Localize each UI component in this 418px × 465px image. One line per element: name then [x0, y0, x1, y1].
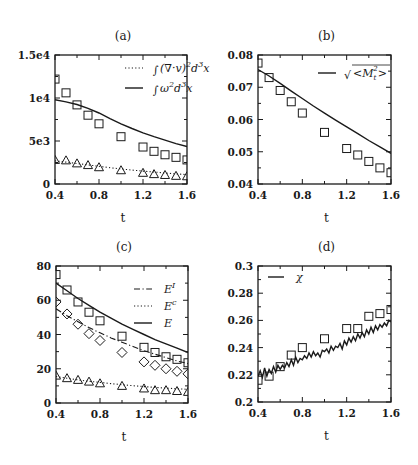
triangle-markers: [51, 155, 192, 179]
legend-label: <Mt2>: [353, 65, 387, 82]
y-tick-label: 0.08: [227, 49, 253, 61]
plot-area: [254, 306, 395, 385]
y-tick-label: 80: [36, 260, 51, 272]
legend: χ: [268, 271, 304, 284]
x-tick-label: 1.6: [179, 408, 197, 420]
y-tick-label: 0.28: [227, 287, 253, 299]
x-tick-label: 0.4: [249, 407, 267, 419]
panel-title: (c): [116, 240, 132, 254]
legend-label: Ec​: [163, 298, 177, 313]
y-tick-label: 0: [43, 178, 50, 190]
y-tick-label: 0.3: [235, 260, 253, 272]
sqrt-symbol: √: [344, 69, 352, 82]
triangle-markers: [52, 371, 193, 395]
y-tick-label: 0.2: [235, 396, 253, 408]
panel-title: (d): [318, 240, 335, 254]
x-tick-label: 0.8: [293, 189, 311, 201]
x-tick-label: 1.2: [338, 407, 356, 419]
x-tick-label: 0.4: [46, 189, 64, 201]
y-tick-label: 0.26: [227, 314, 253, 326]
legend-label: ω2​d3​x: [160, 80, 193, 95]
x-tick-label: 1.2: [135, 408, 153, 420]
x-tick-label: 1.6: [382, 407, 400, 419]
x-tick-label: 1.6: [178, 189, 196, 201]
x-axis-label: t: [324, 429, 329, 443]
y-tick-label: 1.5e4: [18, 49, 50, 61]
x-tick-label: 0.8: [293, 407, 311, 419]
y-tick-label: 0.07: [227, 81, 253, 93]
legend-label: (∇·v)2​d3​x: [160, 60, 210, 75]
x-tick-label: 1.6: [382, 189, 400, 201]
x-axis-label: t: [121, 211, 126, 225]
legend-label: χ: [295, 271, 304, 284]
plot-area: [51, 75, 192, 180]
y-tick-label: 0: [44, 397, 51, 409]
y-tick-label: 0.04: [227, 178, 253, 190]
x-tick-label: 1.2: [338, 189, 356, 201]
y-tick-label: 0.05: [227, 146, 253, 158]
series-line: [55, 100, 187, 147]
y-tick-label: 0.22: [227, 369, 253, 381]
integral-symbol: ∫: [153, 84, 159, 97]
panel-title: (b): [318, 29, 335, 43]
integral-symbol: ∫: [153, 64, 159, 77]
series-line: [258, 320, 391, 377]
y-tick-label: 20: [36, 363, 51, 375]
x-tick-label: 0.8: [90, 189, 108, 201]
panel-b: (b)0.40.81.21.60.040.050.060.070.08t√<Mt…: [227, 29, 400, 225]
plot-frame: [258, 266, 391, 402]
x-axis-label: t: [324, 211, 329, 225]
y-tick-label: 0.24: [227, 342, 253, 354]
y-tick-label: 0.06: [227, 114, 253, 126]
legend-label: E: [163, 317, 172, 330]
legend: √<Mt2>: [318, 65, 390, 82]
x-tick-label: 0.4: [47, 408, 65, 420]
x-tick-label: 0.4: [249, 189, 267, 201]
panel-title: (a): [115, 29, 132, 43]
x-tick-label: 0.8: [91, 408, 109, 420]
legend: EI​Ec​E: [134, 281, 177, 330]
y-tick-label: 40: [36, 329, 51, 341]
figure-canvas: (a)0.40.81.21.605e31e41.5e4t∫(∇·v)2​d3​x…: [0, 0, 418, 465]
x-axis-label: t: [122, 430, 127, 444]
legend-label: EI​: [163, 281, 176, 296]
legend: ∫(∇·v)2​d3​x∫ω2​d3​x: [125, 60, 210, 97]
panel-d: (d)0.40.81.21.60.20.220.240.260.280.3tχ: [227, 240, 400, 443]
y-tick-label: 5e3: [29, 135, 50, 147]
panel-a: (a)0.40.81.21.605e31e41.5e4t∫(∇·v)2​d3​x…: [18, 29, 210, 225]
y-tick-label: 1e4: [29, 92, 50, 104]
y-tick-label: 60: [36, 294, 51, 306]
panel-c: (c)0.40.81.21.6020406080tEI​Ec​E: [36, 240, 197, 444]
x-tick-label: 1.2: [134, 189, 152, 201]
series-line: [258, 70, 391, 154]
